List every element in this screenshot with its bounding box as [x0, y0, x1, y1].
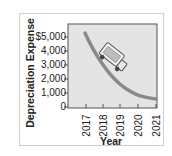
x-tick-text: 2017	[81, 114, 92, 136]
x-axis-label: Year	[100, 135, 122, 147]
y-tick-label: 4,000	[41, 46, 66, 56]
x-tick-text: 2018	[98, 114, 109, 136]
y-tick-label: 3,000	[41, 60, 66, 70]
x-tick-text: 2021	[151, 114, 162, 136]
y-tick-label: 0	[60, 102, 66, 112]
y-tick-label: 2,000	[41, 74, 66, 84]
x-tick-label: 2020	[132, 112, 144, 138]
x-tick-label: 2021	[150, 112, 162, 138]
x-tick-label: 2017	[80, 112, 92, 138]
y-axis-label-text: Depreciation Expense	[24, 18, 36, 128]
y-tick-label: $5,000	[35, 32, 66, 42]
x-tick-text: 2020	[133, 114, 144, 136]
x-tick-text: 2019	[115, 114, 126, 136]
y-tick-label: 1,000	[41, 88, 66, 98]
